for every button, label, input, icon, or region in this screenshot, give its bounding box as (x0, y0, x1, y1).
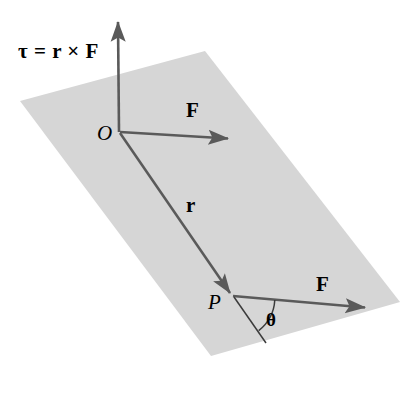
torque-equation-label: τ = r × F (18, 41, 99, 62)
theta-angle-label: θ (266, 310, 276, 329)
force-vector-top-label: F (186, 100, 199, 121)
radius-vector-label: r (186, 195, 195, 216)
torque-cross-product-figure: τ = r × F O F r P F θ (0, 0, 412, 408)
torque-axis-arrow (118, 22, 119, 132)
origin-point-label: O (97, 123, 112, 144)
point-p-label: P (208, 292, 221, 313)
force-vector-bottom-label: F (316, 274, 329, 295)
